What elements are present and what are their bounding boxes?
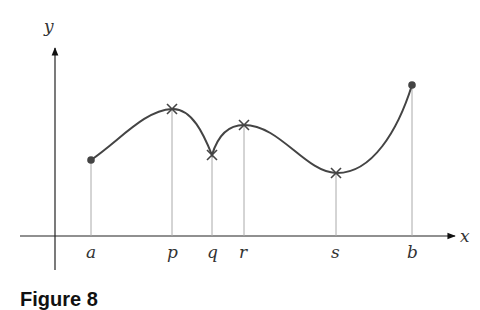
label-q: q — [207, 242, 218, 262]
endpoint-b-dot — [408, 81, 416, 89]
function-curve — [91, 85, 412, 173]
label-r: r — [239, 242, 248, 262]
x-axis-label: x — [460, 226, 470, 246]
endpoint-a-dot — [87, 156, 95, 164]
label-a: a — [86, 242, 96, 262]
y-axis-label: y — [43, 16, 54, 36]
label-s: s — [331, 242, 340, 262]
guide-lines — [91, 85, 412, 236]
label-p: p — [167, 242, 178, 262]
label-b: b — [407, 242, 418, 262]
figure-caption: Figure 8 — [20, 289, 98, 309]
